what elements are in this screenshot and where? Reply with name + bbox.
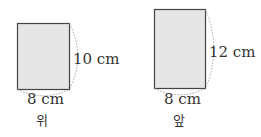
top-view-height-label: 10 cm bbox=[73, 52, 119, 67]
front-view-width-label: 8 cm bbox=[164, 92, 201, 107]
top-view-rectangle bbox=[18, 24, 70, 90]
front-view-height-label: 12 cm bbox=[209, 45, 255, 60]
top-view-caption: 위 bbox=[36, 114, 48, 127]
front-view-rectangle bbox=[155, 10, 206, 89]
top-view-width-label: 8 cm bbox=[27, 92, 64, 107]
front-view-caption: 앞 bbox=[173, 114, 185, 127]
